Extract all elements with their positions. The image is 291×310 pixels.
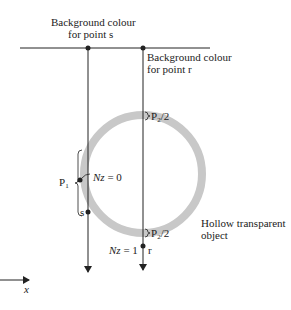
label-nz1: Nz = 1 — [108, 244, 138, 256]
label-bg-r-line1: Background colour — [147, 51, 232, 63]
label-p2-bottom: P2/2 — [151, 227, 169, 241]
label-bg-r-line2: for point r — [147, 63, 192, 75]
point-nz0 — [78, 178, 83, 183]
point-s — [86, 210, 91, 215]
label-bg-s-line2: for point s — [68, 28, 113, 40]
label-object-line1: Hollow transparent — [201, 217, 286, 229]
background-point-r — [141, 46, 146, 51]
label-p2-top: P2/2 — [151, 110, 169, 124]
label-p1: P1 — [59, 176, 69, 190]
diagram-canvas: Background colour for point s Background… — [0, 0, 291, 310]
label-object-line2: object — [201, 229, 228, 241]
label-nz0: Nz = 0 — [92, 171, 122, 183]
background-point-s — [86, 46, 91, 51]
point-r — [141, 244, 146, 249]
label-point-r: r — [148, 244, 152, 256]
label-axis-x: x — [23, 283, 29, 295]
label-point-s: s — [80, 206, 84, 218]
label-bg-s-line1: Background colour — [51, 16, 136, 28]
